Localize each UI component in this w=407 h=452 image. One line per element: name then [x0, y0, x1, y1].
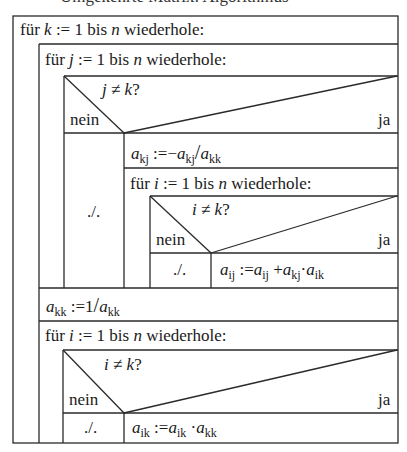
loop-tail: wiederhole: [146, 326, 226, 345]
var: a [132, 418, 141, 437]
var: a [306, 260, 315, 279]
decision-i1-yes-label: ja [378, 230, 390, 250]
assign-aij: aij :=aij +akj·aik [220, 260, 324, 285]
sub: kk [55, 305, 67, 319]
loop-range: := 1 bis [56, 20, 107, 39]
var: a [254, 260, 263, 279]
op: := [239, 260, 253, 279]
loop-keyword: für [130, 174, 150, 193]
cond-q: ? [222, 200, 230, 219]
var: a [283, 260, 292, 279]
sub: ij [262, 268, 269, 282]
loop-tail: wiederhole: [231, 174, 311, 193]
assign-akk: akk :=1/akk [46, 295, 120, 322]
sub: ij [229, 268, 236, 282]
op: := [153, 144, 167, 163]
loop-range: := 1 bis [78, 50, 129, 69]
loop-limit: n [133, 326, 142, 345]
decision-i2-no-label: nein [69, 390, 98, 410]
loop-variable: i [154, 174, 159, 193]
cond-rhs: k [125, 80, 133, 99]
cond-op: ≠ [111, 80, 120, 99]
loop-variable: j [69, 50, 74, 69]
cond-rhs: k [127, 355, 135, 374]
loop-keyword: für [45, 326, 65, 345]
cond-q: ? [134, 355, 142, 374]
loop-keyword: für [20, 20, 40, 39]
var: a [46, 297, 55, 316]
loop-i2-header: für i := 1 bis n wiederhole: [45, 326, 226, 346]
var: a [99, 297, 108, 316]
decision-i2-yes-label: ja [378, 390, 390, 410]
loop-tail: wiederhole: [124, 20, 204, 39]
sub: kj [291, 268, 300, 282]
cond-var: j [102, 80, 107, 99]
decision-i2-condition: i ≠ k? [104, 355, 142, 375]
var: a [131, 144, 140, 163]
loop-tail: wiederhole: [146, 50, 226, 69]
sub: kj [140, 152, 149, 166]
op: := [154, 418, 168, 437]
loop-variable: k [44, 20, 52, 39]
cond-var: i [104, 355, 109, 374]
var: a [196, 418, 205, 437]
loop-limit: n [133, 50, 142, 69]
cond-op: ≠ [201, 200, 210, 219]
loop-j-header: für j := 1 bis n wiederhole: [45, 50, 226, 70]
decision-j-yes-label: ja [378, 110, 390, 130]
sub: ik [177, 426, 186, 440]
loop-k-header: für k := 1 bis n wiederhole: [20, 20, 204, 40]
loop-limit: n [111, 20, 120, 39]
nassi-shneiderman-diagram: Umgekehrte Matrix: Algorithmus [0, 0, 407, 452]
assign-aik: aik :=aik ·akk [132, 418, 217, 443]
loop-keyword: für [45, 50, 65, 69]
loop-range: := 1 bis [163, 174, 214, 193]
decision-j-no-label: nein [70, 110, 99, 130]
cond-rhs: k [215, 200, 223, 219]
var: a [177, 144, 186, 163]
sub: kj [186, 152, 195, 166]
sub: ik [141, 426, 150, 440]
sub: kk [209, 152, 221, 166]
op: − [167, 144, 177, 163]
var: a [220, 260, 229, 279]
cond-q: ? [132, 80, 140, 99]
decision-i1-no-label: nein [156, 230, 185, 250]
var: a [200, 144, 209, 163]
loop-range: := 1 bis [78, 326, 129, 345]
assign-akj: akj :=−akj/akk [131, 142, 221, 169]
loop-limit: n [218, 174, 227, 193]
cond-op: ≠ [113, 355, 122, 374]
decision-j-no-branch: ./. [87, 202, 100, 222]
cond-var: i [192, 200, 197, 219]
var: a [168, 418, 177, 437]
decision-i2-no-branch: ./. [84, 418, 97, 438]
sub: kk [108, 305, 120, 319]
op: := [71, 297, 85, 316]
loop-i1-header: für i := 1 bis n wiederhole: [130, 174, 311, 194]
op: + [273, 260, 283, 279]
sub: kk [205, 426, 217, 440]
decision-j-condition: j ≠ k? [102, 80, 140, 100]
num: 1 [85, 297, 94, 316]
loop-variable: i [69, 326, 74, 345]
decision-i1-no-branch: ./. [173, 260, 186, 280]
decision-i1-condition: i ≠ k? [192, 200, 230, 220]
sub: ik [315, 268, 324, 282]
